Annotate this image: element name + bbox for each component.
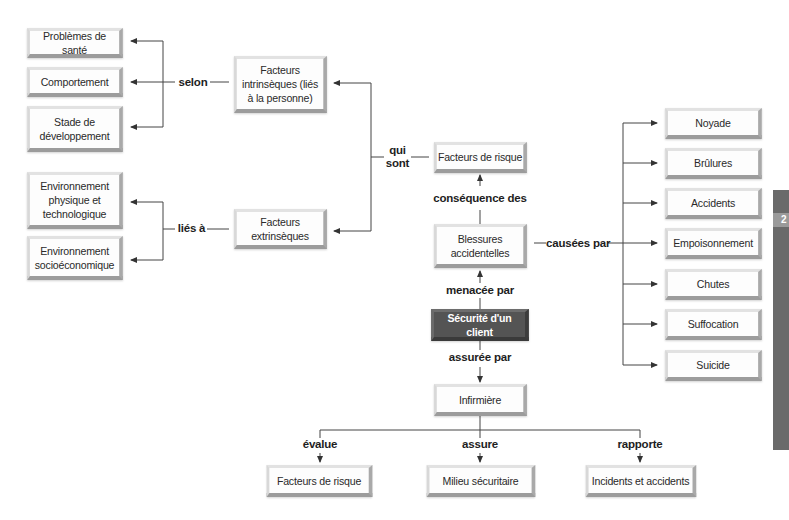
link-label-evalue: évalue	[298, 438, 342, 451]
node-label: Accidents	[691, 196, 735, 210]
node-incidents-accidents: Incidents et accidents	[586, 465, 696, 497]
chapter-number: 2	[773, 213, 789, 227]
node-label-line: Environnement	[35, 244, 115, 258]
node-facteurs-intrinseques: Facteurs intrinsèques (liés à la personn…	[234, 56, 327, 113]
node-facteurs-risque-top: Facteurs de risque	[434, 142, 527, 173]
link-label-consequence-des: conséquence des	[432, 192, 528, 205]
node-label: Incidents et accidents	[592, 474, 690, 488]
node-label: Suffocation	[688, 317, 739, 331]
node-env-physique: Environnement physique et technologique	[27, 172, 123, 229]
node-label: Sécurité d'un client	[434, 311, 525, 339]
link-label-selon: selon	[176, 76, 210, 89]
link-label-assuree-par: assurée par	[448, 351, 512, 364]
node-milieu-securitaire: Milieu sécuritaire	[427, 465, 536, 497]
node-facteurs-extrinseques: Facteurs extrinsèques	[234, 209, 327, 249]
node-label-line: technologique	[40, 207, 109, 221]
node-brulures: Brûlures	[665, 148, 762, 179]
node-label-line: Blessures	[451, 232, 510, 246]
node-infirmiere: Infirmière	[434, 384, 527, 416]
node-label: Suicide	[696, 358, 729, 372]
node-label: Empoisonnement	[673, 236, 753, 250]
node-label-line: intrinsèques (liés	[242, 77, 318, 91]
node-label: Noyade	[695, 116, 730, 130]
node-label-line: développement	[40, 129, 110, 143]
node-label-line: accidentelles	[451, 246, 510, 260]
node-label: Brûlures	[694, 156, 732, 170]
node-suicide: Suicide	[665, 350, 762, 381]
node-label-line: Stade de	[40, 115, 110, 129]
node-env-socio: Environnement socioéconomique	[27, 236, 123, 280]
node-label: Comportement	[41, 75, 109, 89]
node-chutes: Chutes	[665, 269, 762, 300]
node-label: Chutes	[697, 277, 729, 291]
link-label-rapporte: rapporte	[614, 438, 666, 451]
node-empoisonnement: Empoisonnement	[665, 228, 762, 259]
node-label-line: extrinsèques	[251, 229, 309, 243]
node-suffocation: Suffocation	[665, 309, 762, 340]
link-label-line: sont	[384, 157, 411, 170]
link-label-qui-sont: qui sont	[384, 144, 411, 170]
link-label-line: qui	[384, 144, 411, 157]
node-comportement: Comportement	[27, 67, 123, 97]
node-label-line: socioéconomique	[35, 258, 115, 272]
node-label-line: physique et	[40, 193, 109, 207]
link-label-menacee-par: menacée par	[444, 284, 516, 297]
node-label-line: à la personne)	[242, 91, 318, 105]
node-securite-client: Sécurité d'un client	[431, 309, 529, 341]
node-label: Facteurs de risque	[277, 474, 361, 488]
link-label-causees-par: causées par	[546, 237, 608, 250]
link-label-lies-a: liés à	[176, 222, 207, 235]
node-label-line: Facteurs	[251, 215, 309, 229]
node-stade-developpement: Stade de développement	[27, 106, 123, 152]
node-label-line: Environnement	[40, 179, 109, 193]
node-label: Milieu sécuritaire	[443, 474, 519, 488]
node-problemes-sante: Problèmes de santé	[27, 28, 123, 58]
link-label-assure: assure	[458, 438, 502, 451]
node-label: Facteurs de risque	[438, 150, 522, 164]
node-label-line: Facteurs	[242, 63, 318, 77]
node-blessures-accidentelles: Blessures accidentelles	[434, 224, 527, 268]
node-label: Infirmière	[459, 393, 501, 407]
node-accidents: Accidents	[665, 188, 762, 219]
node-label: Problèmes de santé	[30, 29, 119, 57]
chapter-side-tab: 2	[773, 190, 789, 450]
node-bottom-facteurs-risque: Facteurs de risque	[267, 465, 373, 497]
node-noyade: Noyade	[665, 108, 762, 139]
